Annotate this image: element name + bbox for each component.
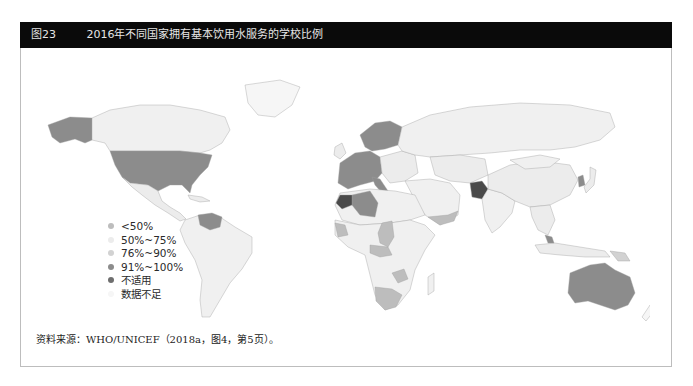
map-legend: <50% 50%~75% 76%~90% 91%~100% 不适用 数据不足 [108,220,183,301]
region-greenland [245,80,300,117]
region-russia [398,103,615,157]
region-alaska [48,117,92,143]
legend-label: 不适用 [121,274,151,286]
legend-label: 50%~75% [121,234,176,246]
legend-swatch-icon [108,291,114,297]
legend-item-91-100: 91%~100% [108,261,183,275]
legend-swatch-icon [108,237,114,243]
source-note: 资料来源：WHO/UNICEF（2018a，图4，第5页）。 [36,331,279,346]
region-united-states [110,151,212,193]
legend-swatch-icon [108,250,114,256]
legend-swatch-icon [108,277,114,283]
region-malaysia [545,235,554,243]
region-north-africa [335,189,425,225]
region-australia [568,263,635,310]
region-korea [578,175,585,187]
legend-item-76-90: 76%~90% [108,247,183,261]
region-indonesia [535,243,610,257]
legend-item-insufficient-data: 数据不足 [108,288,183,302]
region-japan [584,167,596,193]
region-united-kingdom [334,143,346,159]
legend-label: 91%~100% [121,261,183,273]
figure-number: 图23 [31,22,83,48]
legend-swatch-icon [108,264,114,270]
legend-item-not-applicable: 不适用 [108,274,183,288]
legend-label: 数据不足 [121,288,161,300]
figure-header: 图23 2016年不同国家拥有基本饮用水服务的学校比例 [20,22,672,48]
legend-item-50-75: 50%~75% [108,234,183,248]
legend-label: 76%~90% [121,247,176,259]
region-eastern-europe [380,151,418,183]
figure-title: 2016年不同国家拥有基本饮用水服务的学校比例 [87,28,324,41]
legend-item-lt50: <50% [108,220,183,234]
region-south-america [180,215,252,317]
region-southeast-asia [530,205,555,235]
region-scandinavia [360,121,402,151]
region-new-zealand [642,305,650,321]
region-canada [92,105,230,153]
legend-swatch-icon [108,223,114,229]
region-papua-new-guinea [610,251,630,261]
region-caribbean [188,195,210,202]
legend-label: <50% [121,220,153,232]
region-madagascar [428,273,434,295]
region-central-asia [430,155,488,183]
